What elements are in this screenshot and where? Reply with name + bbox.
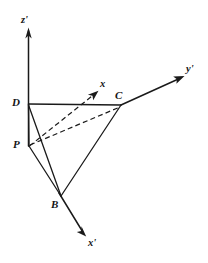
edge-P-B (29, 146, 61, 196)
axis-y-prime-line (121, 79, 180, 106)
edge-D-C (29, 104, 122, 105)
geometry-diagram: z' y' x' x D P C B (0, 0, 208, 263)
edge-D-P (29, 104, 30, 146)
axis-label-z-prime: z' (21, 15, 28, 26)
edge-D-B (29, 105, 62, 196)
axis-x-prime-arrowhead (77, 226, 86, 236)
axis-x-prime-line (59, 193, 83, 232)
point-label-B: B (51, 199, 58, 210)
point-label-C: C (115, 90, 122, 101)
axis-y-prime (121, 76, 185, 105)
axis-label-x-prime: x' (88, 238, 96, 249)
point-label-D: D (12, 97, 20, 108)
solid-edges (29, 104, 122, 196)
axis-x-prime (59, 193, 86, 237)
diagram-canvas (0, 0, 208, 263)
axis-label-y-prime: y' (186, 64, 194, 75)
point-label-P: P (13, 139, 20, 150)
axis-label-x: x (100, 79, 105, 90)
axis-x-line (30, 95, 95, 147)
